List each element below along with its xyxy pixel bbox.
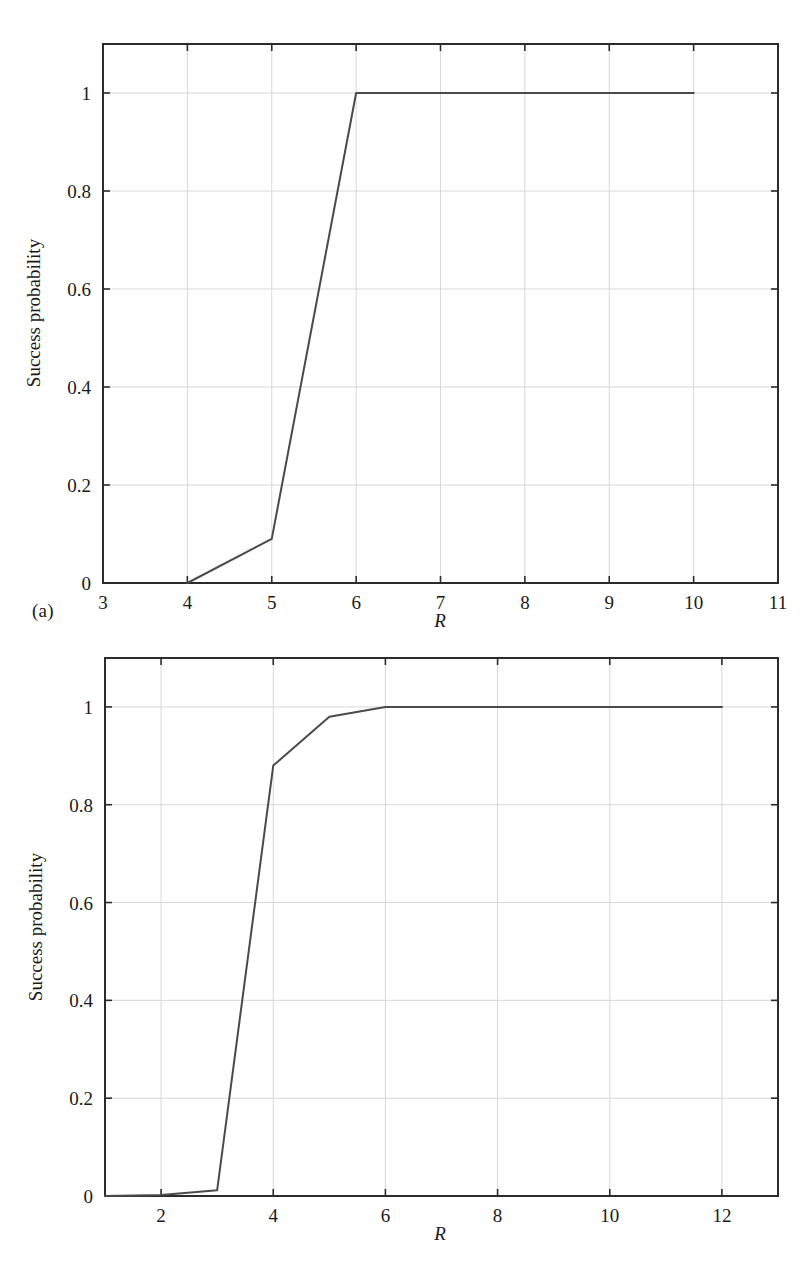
x-tick-label: 11: [769, 592, 787, 613]
x-tick-label: 9: [605, 592, 615, 613]
y-tick-label: 0.2: [67, 475, 91, 496]
chart-panel-b: 24681012 00.20.40.60.81 R Success probab…: [0, 644, 811, 1288]
y-tick-label: 0.4: [69, 990, 93, 1011]
y-axis-title-a: Success probability: [23, 238, 44, 387]
x-tick-label: 6: [381, 1205, 391, 1226]
x-tick-label: 3: [98, 592, 108, 613]
y-axis-title-b: Success probability: [25, 852, 46, 1001]
chart-panel-a: 34567891011 00.20.40.60.81 R Success pro…: [0, 0, 811, 644]
gridlines-a: [103, 44, 778, 583]
x-tick-label: 10: [684, 592, 703, 613]
x-axis-title-a: R: [433, 610, 446, 631]
y-tick-label: 0.2: [69, 1088, 93, 1109]
y-tick-label: 1: [82, 83, 92, 104]
x-tick-label: 5: [267, 592, 277, 613]
x-tick-label: 2: [156, 1205, 166, 1226]
y-tick-label: 0.6: [69, 893, 93, 914]
data-line-b: [105, 707, 722, 1196]
y-tick-label: 1: [84, 697, 94, 718]
gridlines-b: [105, 658, 778, 1196]
figure-container: 34567891011 00.20.40.60.81 R Success pro…: [0, 0, 811, 1288]
x-tick-label: 8: [520, 592, 530, 613]
x-tick-label: 12: [712, 1205, 731, 1226]
tickmarks-b: [105, 658, 778, 1196]
y-tick-labels-a: 00.20.40.60.81: [67, 83, 91, 594]
y-tick-label: 0.6: [67, 279, 91, 300]
x-tick-label: 6: [351, 592, 361, 613]
y-tick-label: 0: [84, 1186, 94, 1207]
panel-label-a: (a): [32, 600, 54, 622]
y-tick-label: 0.4: [67, 377, 91, 398]
x-axis-title-b: R: [433, 1223, 446, 1244]
x-tick-label: 4: [269, 1205, 279, 1226]
chart-a-svg: 34567891011 00.20.40.60.81 R Success pro…: [0, 0, 811, 644]
chart-b-svg: 24681012 00.20.40.60.81 R Success probab…: [0, 644, 811, 1288]
y-tick-label: 0.8: [69, 795, 93, 816]
x-tick-label: 4: [183, 592, 193, 613]
x-tick-label: 10: [600, 1205, 619, 1226]
y-tick-labels-b: 00.20.40.60.81: [69, 697, 93, 1207]
plot-frame-b: [105, 658, 778, 1196]
y-tick-label: 0.8: [67, 181, 91, 202]
y-tick-label: 0: [82, 573, 92, 594]
x-tick-label: 8: [493, 1205, 503, 1226]
